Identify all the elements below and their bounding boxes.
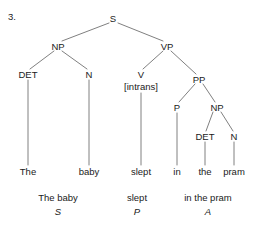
tree-terminal-w-slept: slept	[131, 166, 151, 177]
tree-node-n2: N	[231, 131, 238, 142]
verb-feature-vfeat: [intrans]	[124, 81, 158, 92]
tree-branch-np2-det2	[206, 112, 213, 131]
tree-node-vp: VP	[161, 41, 174, 52]
function-symbol-func-s: S	[55, 206, 61, 217]
tree-node-np1: NP	[51, 41, 64, 52]
function-symbol-func-a: A	[205, 206, 211, 217]
tree-node-p: P	[174, 102, 180, 113]
tree-branch-pp-p	[179, 84, 195, 102]
tree-node-det1: DET	[19, 69, 38, 80]
tree-branch-np1-n1	[62, 51, 87, 69]
tree-node-n1: N	[86, 69, 93, 80]
tree-branch-pp-np2	[203, 84, 215, 102]
tree-branch-s-np1	[62, 23, 109, 41]
syntax-tree-figure: 3. SNPVPDETNV[intrans]PPPNPDETN Thebabys…	[0, 0, 257, 232]
tree-terminal-w-in: in	[173, 166, 180, 177]
function-phrase-func-s: The baby	[38, 192, 78, 203]
tree-branch-vp-v	[143, 51, 163, 69]
function-symbol-func-p: P	[134, 206, 140, 217]
tree-branch-s-vp	[118, 23, 163, 41]
tree-terminal-w-the2: the	[198, 166, 211, 177]
tree-branch-np2-n2	[221, 112, 233, 131]
tree-node-v: V	[138, 69, 144, 80]
tree-terminal-w-baby: baby	[79, 166, 100, 177]
tree-node-pp: PP	[193, 74, 206, 85]
tree-node-det2: DET	[196, 131, 215, 142]
tree-node-np2: NP	[210, 102, 223, 113]
function-phrase-func-p: slept	[127, 192, 147, 203]
tree-terminal-w-the1: The	[20, 166, 36, 177]
tree-branch-vp-pp	[171, 51, 196, 74]
function-phrase-func-a: in the pram	[184, 192, 232, 203]
tree-branch-np1-det1	[30, 51, 54, 69]
tree-node-s: S	[110, 13, 116, 24]
tree-terminal-w-pram: pram	[223, 166, 245, 177]
